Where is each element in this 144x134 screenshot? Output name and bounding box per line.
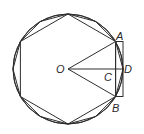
geometry-diagram: O A B C D [0, 0, 144, 134]
label-O: O [56, 63, 65, 75]
label-B: B [112, 102, 119, 114]
segment-OA [68, 42, 116, 70]
label-C: C [104, 71, 112, 83]
label-A: A [115, 30, 123, 42]
label-D: D [124, 63, 132, 75]
